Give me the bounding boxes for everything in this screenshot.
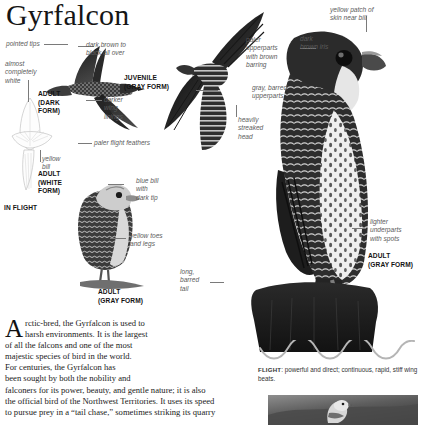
body-line: of all the falcons and one of the most	[5, 340, 191, 351]
body-line: been sought by both the nobility and	[5, 373, 191, 384]
callout-lighter-underparts: lighter underparts with spots	[370, 218, 420, 243]
callout-almost-white: almost completely white	[5, 60, 45, 85]
callout-blue-bill: blue bill with dark tip	[136, 177, 176, 202]
leader-line	[352, 228, 366, 229]
plate-label-in-flight: IN FLIGHT	[4, 204, 37, 213]
leader-line	[86, 100, 102, 101]
body-line: majestic species of bird in the world.	[5, 351, 191, 362]
callout-gray-barred-upperparts: gray, barred upperparts	[252, 84, 310, 101]
flight-label: FLIGHT	[258, 366, 281, 373]
callout-darker-wing-linings: darker wing linings	[104, 96, 138, 121]
callout-pointed-tips: pointed tips	[6, 40, 48, 48]
species-photograph	[268, 395, 418, 425]
callout-dark-brown-black: dark brown to black all over	[86, 41, 148, 58]
body-line: rctic-bred, the Gyrfalcon is used to	[5, 318, 177, 329]
callout-paler-flight-feathers: paler flight feathers	[94, 139, 170, 147]
page-title: Gyrfalcon	[6, 0, 129, 32]
plate-label-adult-white-form: ADULT (WHITE FORM)	[38, 170, 62, 196]
body-line: falconers for its power, beauty, and gen…	[5, 385, 257, 396]
body-line: For centuries, the Gyrfalcon has	[5, 362, 191, 373]
plate-label-adult-gray-form-perched: ADULT (GRAY FORM)	[98, 288, 143, 305]
plate-label-juvenile-gray-form: JUVENILE (GRAY FORM)	[124, 74, 169, 91]
callout-dark-brown-iris: dark brown iris	[300, 35, 346, 52]
flight-pattern-wave	[258, 340, 416, 366]
callout-heavily-streaked-head: heavily streaked head	[238, 116, 280, 141]
flight-description: FLIGHT: powerful and direct; continuous,…	[258, 366, 418, 383]
callout-yellow-toes: yellow toes and legs	[130, 232, 180, 249]
body-line: the official bird of the Northwest Terri…	[5, 396, 257, 407]
plate-label-adult-gray-form-large: ADULT (GRAY FORM)	[368, 252, 413, 269]
leader-line	[108, 184, 124, 185]
body-line: harsh environments. It is the largest	[5, 329, 177, 340]
callout-long-barred-tail: long, barred tail	[180, 268, 214, 293]
leader-line	[40, 150, 41, 162]
callout-yellow-patch-skin: yellow patch of skin near bill	[330, 6, 406, 23]
field-guide-page: Gyrfalcon	[0, 0, 421, 425]
callout-paler-upperparts: paler upperparts with brown barring	[246, 36, 298, 70]
drop-cap: A	[5, 318, 25, 339]
leader-line	[236, 105, 237, 117]
leader-line	[110, 238, 126, 239]
leader-line	[78, 143, 92, 144]
plate-label-adult-dark-form: ADULT (DARK FORM)	[38, 90, 60, 116]
species-description: A rctic-bred, the Gyrfalcon is used to h…	[5, 318, 257, 418]
illustration-adult-gray-form-large	[238, 22, 388, 352]
body-line: to pursue prey in a “tail chase,” someti…	[5, 407, 257, 418]
leader-line	[196, 90, 218, 91]
